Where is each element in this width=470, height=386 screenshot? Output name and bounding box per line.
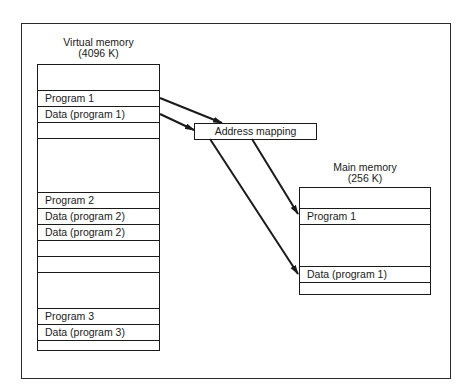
- virtual-memory-box: Program 1Data (program 1)Program 2Data (…: [37, 64, 160, 351]
- memory-segment: Data (program 2): [38, 209, 159, 225]
- memory-segment: Program 2: [38, 193, 159, 209]
- virtual-memory-size: (4096 K): [37, 48, 160, 59]
- memory-segment: Program 1: [38, 91, 159, 107]
- memory-segment-empty: [300, 188, 430, 209]
- memory-segment-empty: [38, 257, 159, 273]
- memory-segment-empty: [38, 241, 159, 257]
- memory-segment: Program 1: [300, 209, 430, 225]
- memory-segment: Program 3: [38, 309, 159, 325]
- memory-segment-empty: [38, 123, 159, 139]
- memory-segment: Data (program 1): [38, 107, 159, 123]
- main-memory-caption: Main memory (256 K): [299, 162, 431, 184]
- memory-segment-empty: [300, 225, 430, 267]
- memory-segment: Data (program 2): [38, 225, 159, 241]
- memory-segment-empty: [38, 139, 159, 193]
- memory-segment: Data (program 3): [38, 325, 159, 341]
- memory-segment-empty: [38, 341, 159, 352]
- memory-segment-empty: [300, 283, 430, 296]
- main-memory-size: (256 K): [299, 173, 431, 184]
- address-mapping-label: Address mapping: [215, 125, 297, 137]
- address-mapping-box: Address mapping: [194, 123, 317, 140]
- main-memory-box: Program 1Data (program 1): [299, 187, 431, 295]
- memory-segment: Data (program 1): [300, 267, 430, 283]
- virtual-memory-caption: Virtual memory (4096 K): [37, 37, 160, 59]
- memory-segment-empty: [38, 273, 159, 309]
- memory-segment-empty: [38, 65, 159, 91]
